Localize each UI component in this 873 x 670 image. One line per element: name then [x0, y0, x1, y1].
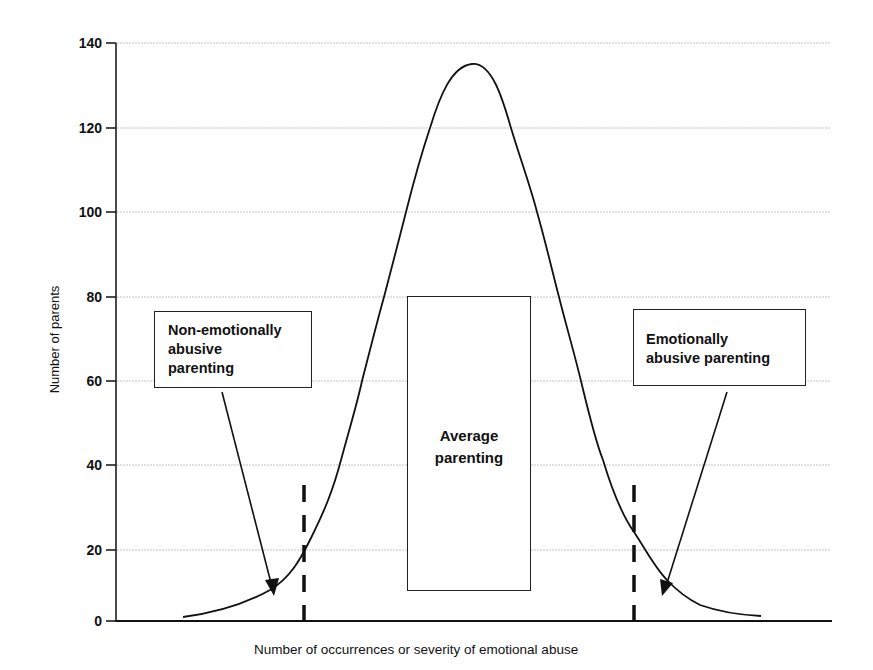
emotionally-abusive-box: Emotionally abusive parenting: [633, 309, 806, 386]
non-emotionally-abusive-label: Non-emotionally abusive parenting: [168, 321, 311, 378]
y-axis: [106, 43, 116, 622]
y-tick-140: 140: [62, 35, 102, 51]
y-tick-120: 120: [62, 120, 102, 136]
y-tick-0: 0: [62, 613, 102, 629]
y-tick-80: 80: [62, 289, 102, 305]
y-tick-100: 100: [62, 204, 102, 220]
y-tick-20: 20: [62, 542, 102, 558]
y-tick-40: 40: [62, 457, 102, 473]
x-axis-title: Number of occurrences or severity of emo…: [254, 642, 578, 657]
right-arrow: [660, 392, 727, 596]
y-axis-title: Number of parents: [47, 281, 62, 399]
emotionally-abusive-label: Emotionally abusive parenting: [646, 330, 805, 368]
right-arrowhead-icon: [660, 579, 673, 596]
y-tick-60: 60: [62, 373, 102, 389]
left-arrow: [222, 392, 279, 596]
non-emotionally-abusive-box: Non-emotionally abusive parenting: [154, 311, 312, 388]
left-arrowhead-icon: [265, 578, 279, 596]
average-parenting-box: Average parenting: [407, 296, 531, 591]
average-parenting-label: Average parenting: [408, 425, 530, 469]
